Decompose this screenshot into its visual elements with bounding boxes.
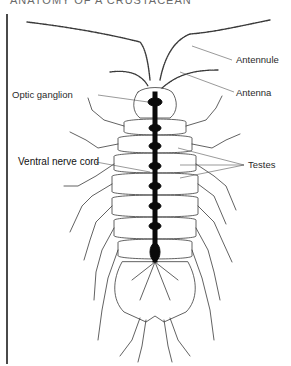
- label-antenna: Antenna: [236, 88, 271, 98]
- label-ventral-nerve-cord: Ventral nerve cord: [18, 157, 99, 167]
- legs-right: [186, 96, 240, 340]
- ventral-nerve-cord-structure: [148, 92, 162, 262]
- label-antennule: Antennule: [236, 55, 279, 65]
- uropods: [120, 318, 190, 362]
- label-optic-ganglion: Optic ganglion: [12, 90, 73, 100]
- antenna-appendages: [110, 70, 218, 88]
- label-testes: Testes: [248, 160, 275, 170]
- tail-plate: [115, 262, 196, 322]
- antennule-appendages: [27, 20, 270, 80]
